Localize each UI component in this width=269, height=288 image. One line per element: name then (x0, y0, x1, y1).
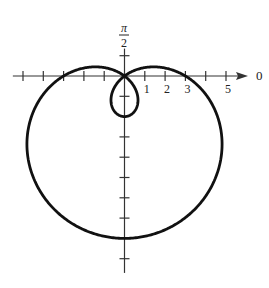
x-tick-label: 3 (184, 82, 190, 96)
vertical-axis-label: π 2 (119, 21, 129, 50)
x-tick-label: 2 (164, 82, 170, 96)
x-tick-label: 1 (144, 82, 150, 96)
denominator-label: 2 (121, 36, 127, 50)
polar-axis-label: 0 (256, 68, 263, 83)
x-tick-label: 5 (225, 82, 231, 96)
pi-label: π (121, 21, 128, 35)
tick-labels: 1235 (144, 82, 231, 96)
polar-graph: 1235 0 π 2 (0, 0, 269, 288)
